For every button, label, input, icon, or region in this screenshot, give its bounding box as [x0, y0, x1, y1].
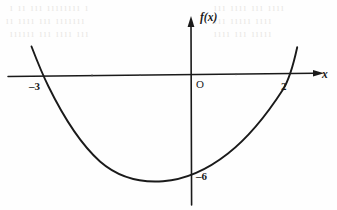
- y-axis-line: [191, 24, 192, 205]
- root-right-label: 2: [281, 80, 287, 92]
- x-axis-line: [8, 73, 315, 76]
- y-axis-arrowhead: [188, 16, 195, 27]
- origin-label: O: [196, 78, 204, 90]
- function-curve-path: [32, 47, 298, 182]
- x-axis: [8, 70, 324, 77]
- y-intercept-label: –6: [196, 170, 207, 182]
- plot-canvas: [0, 0, 337, 210]
- x-axis-label: x: [322, 68, 328, 80]
- parabola-curve: [32, 47, 298, 182]
- figure-container: ı ıı ııı ıııııııı ı ıı ıııı ııı ııııııı …: [0, 0, 337, 210]
- y-axis-label: f(x): [200, 11, 217, 23]
- root-left-label: –3: [29, 80, 40, 92]
